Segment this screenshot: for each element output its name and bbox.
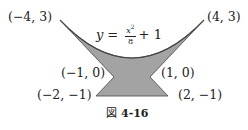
- point-label-1-0: (1, 0): [161, 67, 195, 80]
- equation-fraction: x2 8: [125, 24, 135, 46]
- equation-denominator: 8: [128, 37, 133, 46]
- equation-lhs: y: [96, 27, 103, 42]
- caption-number: 4-16: [121, 107, 149, 120]
- point-label-2-neg1: (2, −1): [178, 89, 222, 102]
- point-label-neg2-neg1: (−2, −1): [37, 89, 92, 102]
- equation-tail: + 1: [139, 27, 162, 42]
- point-label-neg1-0: (−1, 0): [61, 67, 105, 80]
- equation-label: y = x2 8 + 1: [96, 24, 162, 46]
- caption-prefix: 図: [106, 107, 117, 120]
- figure-caption: 図4-16: [106, 104, 149, 120]
- point-label-neg4-3: (−4, 3): [8, 11, 52, 24]
- equation-numerator: x2: [125, 24, 135, 37]
- point-label-4-3: (4, 3): [207, 11, 241, 24]
- numerator-exponent: 2: [131, 23, 135, 30]
- equation-equals: =: [107, 27, 118, 42]
